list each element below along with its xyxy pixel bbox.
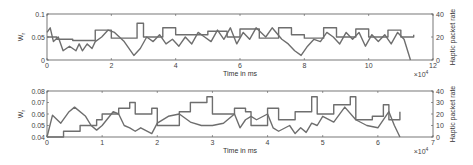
packet-rate-line: [47, 97, 400, 137]
x-tick-label: 6: [238, 62, 242, 69]
y-tick-label: 0.04: [31, 134, 45, 141]
y-tick-label: 0.07: [31, 99, 45, 106]
y2-tick-label: 20: [436, 111, 444, 118]
x-tick-label: 0: [45, 139, 49, 146]
top-plot: 02468101200.050.102040Time in msWrHaptic…: [17, 9, 457, 78]
x-tick-label: 5: [321, 139, 325, 146]
x-tick-label: 2: [109, 62, 113, 69]
x-tick-label: 10: [365, 62, 373, 69]
y-axis-label: Wr: [17, 110, 26, 119]
y2-tick-label: 20: [436, 34, 444, 41]
x-axis-label: Time in ms: [223, 70, 257, 77]
y2-tick-label: 0: [436, 134, 440, 141]
x-tick-label: 6: [376, 139, 380, 146]
x-tick-label: 2: [155, 139, 159, 146]
y-axis-label: Wr: [17, 33, 26, 42]
x-tick-label: 7: [431, 139, 435, 146]
y2-tick-label: 10: [436, 122, 444, 129]
x-multiplier: ×104: [414, 69, 429, 78]
y-tick-label: 0.06: [31, 111, 45, 118]
x-tick-label: 0: [45, 62, 49, 69]
y-tick-label: 0.05: [31, 34, 45, 41]
y-tick-label: 0: [41, 57, 45, 64]
x-axis-label: Time in ms: [223, 147, 257, 154]
x-multiplier: ×104: [414, 146, 429, 155]
y-tick-label: 0.05: [31, 122, 45, 129]
y-tick-label: 0.08: [31, 88, 45, 95]
y2-tick-label: 40: [436, 11, 444, 18]
bottom-plot: 012345670.040.050.060.070.08010203040Tim…: [17, 86, 457, 155]
y2-tick-label: 0: [436, 57, 440, 64]
y-tick-label: 0.1: [35, 11, 45, 18]
y2-tick-label: 30: [436, 99, 444, 106]
y2-axis-label: Haptic packet rate: [449, 86, 457, 143]
x-tick-label: 4: [174, 62, 178, 69]
x-tick-label: 4: [266, 139, 270, 146]
x-tick-label: 1: [100, 139, 104, 146]
y2-axis-label: Haptic packet rate: [449, 9, 457, 66]
y2-tick-label: 40: [436, 88, 444, 95]
figure: 02468101200.050.102040Time in msWrHaptic…: [0, 0, 473, 165]
wr-line: [47, 107, 400, 137]
x-tick-label: 3: [210, 139, 214, 146]
x-tick-label: 8: [302, 62, 306, 69]
